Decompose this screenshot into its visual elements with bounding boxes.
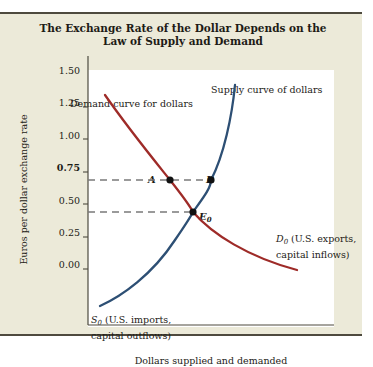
y-axis-label: Euros per dollar exchange rate (18, 85, 29, 295)
e0-subscript: 0 (207, 215, 212, 224)
d0-curve-label: D0 (U.S. exports, capital inflows) (276, 233, 356, 260)
point-b-label: B (206, 174, 214, 185)
d0-text-line2: capital inflows) (276, 249, 350, 260)
x-axis-label: Dollars supplied and demanded (88, 355, 334, 366)
point-a-label: A (148, 174, 156, 185)
figure-panel: The Exchange Rate of the Dollar Depends … (0, 12, 362, 336)
supply-curve-annotation: Supply curve of dollars (211, 84, 322, 96)
d0-symbol: D (276, 233, 284, 244)
ytick-label-000: 0.00 (40, 259, 80, 270)
demand-curve-annotation: Demand curve for dollars (70, 98, 193, 110)
s0-text-line2: capital outflows) (91, 330, 171, 341)
ytick-label-025: 0.25 (40, 227, 80, 238)
ytick-label-100: 1.00 (40, 130, 80, 141)
y-axis-tick-labels: 1.50 1.25 1.00 0.75 0.50 0.25 0.00 (36, 14, 80, 367)
d0-text-line1: (U.S. exports, (288, 233, 356, 244)
s0-text-line1: (U.S. imports, (102, 314, 171, 325)
ytick-label-150: 1.50 (40, 65, 80, 76)
ytick-label-050: 0.50 (40, 195, 80, 206)
ytick-label-075: 0.75 (40, 162, 80, 173)
e0-symbol: E (199, 211, 207, 222)
point-e0-label: E0 (199, 211, 212, 224)
s0-curve-label: S0 (U.S. imports, capital outflows) (91, 314, 171, 341)
